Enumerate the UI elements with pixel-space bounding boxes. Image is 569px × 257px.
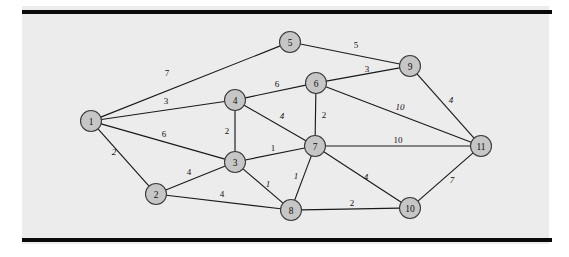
graph-node-7: 7 [305, 136, 326, 157]
edge-weight-4-6: 6 [275, 79, 280, 89]
graph-node-6: 6 [306, 73, 327, 94]
graph-edge-1-2 [98, 129, 149, 186]
node-label-6: 6 [314, 79, 319, 89]
edge-weight-1-2: 2 [112, 147, 117, 157]
edge-weight-3-7: 1 [271, 143, 276, 153]
edge-weight-4-7: 4 [280, 111, 285, 121]
graph-node-4: 4 [225, 90, 246, 111]
edge-weight-3-8: 1 [266, 179, 271, 189]
node-label-10: 10 [405, 204, 415, 214]
edge-weight-7-8: 1 [294, 171, 299, 181]
graph-edge-2-3 [166, 166, 226, 190]
node-label-7: 7 [313, 142, 318, 152]
graph-edge-10-11 [418, 153, 473, 201]
edge-weight-1-4: 3 [164, 96, 169, 106]
weighted-graph-diagram: 73624421164532101410247 1234567891011 [0, 0, 569, 257]
edge-weight-7-10: 4 [364, 172, 369, 182]
graph-edge-4-7 [244, 105, 306, 141]
graph-node-2: 2 [146, 184, 167, 205]
edge-weight-7-11: 10 [394, 135, 404, 145]
graph-edge-8-10 [301, 208, 399, 210]
edge-weight-10-11: 7 [450, 175, 455, 185]
edge-weight-2-8: 4 [220, 189, 225, 199]
figure-root: 73624421164532101410247 1234567891011 [0, 0, 569, 257]
edge-weight-6-7: 2 [322, 110, 327, 120]
graph-node-5: 5 [280, 32, 301, 53]
edge-weight-3-4: 2 [225, 126, 230, 136]
graph-edge-6-7 [315, 93, 316, 135]
edge-weight-2-3: 4 [187, 167, 192, 177]
graph-node-3: 3 [225, 152, 246, 173]
graph-node-8: 8 [281, 200, 302, 221]
edge-weight-1-3: 6 [162, 129, 167, 139]
graph-edge-9-11 [417, 74, 474, 138]
node-label-2: 2 [154, 190, 159, 200]
node-label-8: 8 [289, 206, 294, 216]
node-label-9: 9 [408, 62, 413, 72]
edge-weight-6-9: 3 [365, 64, 370, 74]
graph-node-10: 10 [400, 198, 421, 219]
edge-weight-5-9: 5 [354, 40, 359, 50]
graph-node-11: 11 [471, 136, 492, 157]
graph-edge-6-9 [326, 68, 399, 81]
edge-weight-9-11: 4 [449, 95, 454, 105]
graph-edge-3-8 [243, 169, 283, 203]
edge-weight-6-11: 10 [396, 102, 406, 112]
graph-edge-5-9 [300, 44, 399, 64]
graph-node-9: 9 [400, 56, 421, 77]
node-label-11: 11 [476, 142, 485, 152]
edge-weight-8-10: 2 [350, 198, 355, 208]
graph-edge-7-10 [324, 152, 401, 203]
node-label-4: 4 [233, 96, 238, 106]
node-label-1: 1 [89, 117, 94, 127]
node-label-3: 3 [233, 158, 238, 168]
graph-node-1: 1 [81, 111, 102, 132]
edge-weight-1-5: 7 [165, 68, 170, 78]
node-label-5: 5 [288, 38, 293, 48]
